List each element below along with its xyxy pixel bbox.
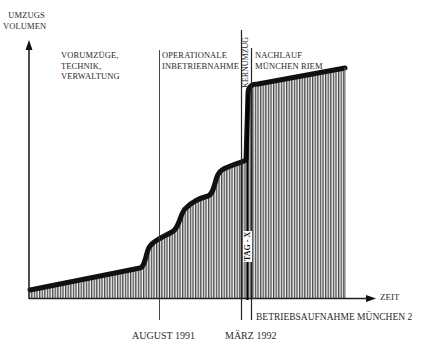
y-axis-arrow-icon <box>26 40 33 50</box>
marker-label-maerz-1992: MÄRZ 1992 <box>225 330 276 341</box>
phase-label-nachlauf: NACHLAUF MÜNCHEN RIEM <box>255 50 323 71</box>
tag-x-label: TAG - X <box>243 231 252 262</box>
y-axis-label-line2: VOLUMEN <box>3 21 46 32</box>
phase-label-vorumzuege: VORUMZÜGE, TECHNIK, VERWALTUNG <box>61 50 120 82</box>
phase-label-operationale-inbetriebnahme: OPERATIONALE INBETRIEBNAHME <box>162 50 239 71</box>
x-axis-label: ZEIT <box>380 292 400 302</box>
y-axis-label-line1: UMZUGS <box>3 10 46 21</box>
x-axis-arrow-icon <box>366 295 376 302</box>
volume-area <box>30 68 345 298</box>
y-axis-label: UMZUGS VOLUMEN <box>3 10 46 31</box>
marker-label-august-1991: AUGUST 1991 <box>132 330 195 341</box>
marker-label-betriebsaufnahme: BETRIEBSAUFNAHME MÜNCHEN 2 <box>256 312 412 322</box>
phase-label-kernumzug: KERNUMZUG <box>241 37 250 88</box>
